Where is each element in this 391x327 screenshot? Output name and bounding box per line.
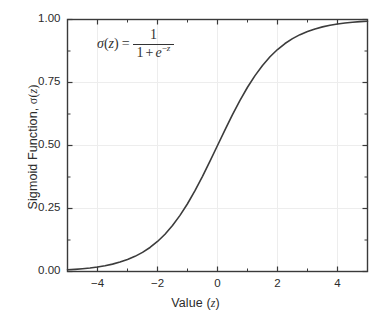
x-tick-label: −2 <box>143 277 173 289</box>
x-tick-label: −4 <box>83 277 113 289</box>
sigmoid-formula-annotation: σ(z) = 1 1+e−z <box>97 28 174 60</box>
formula-denominator-plus: + <box>144 45 156 60</box>
y-axis-title-close-paren: ) <box>26 85 40 89</box>
formula-sigma: σ <box>97 36 104 51</box>
chart-figure: 0.000.250.500.751.00−4−2024 Value (z) Si… <box>0 0 391 327</box>
y-axis-title-rotator: Sigmoid Function, σ(z) <box>23 7 41 287</box>
formula-close-paren: ) <box>114 36 119 51</box>
x-axis-title-suffix: ) <box>215 296 219 310</box>
x-axis-title-prefix: Value ( <box>171 296 210 310</box>
x-tick-label: 4 <box>323 277 353 289</box>
formula-denominator: 1+e−z <box>133 45 175 61</box>
y-axis-title: Sigmoid Function, σ(z) <box>26 85 41 210</box>
x-tick-label: 0 <box>203 277 233 289</box>
y-axis-title-prefix: Sigmoid Function, <box>26 104 40 209</box>
formula-equals-sign: = <box>122 36 130 52</box>
y-axis-title-open-paren: ( <box>26 93 40 97</box>
x-axis-title: Value (z) <box>0 296 391 311</box>
formula-denominator-one: 1 <box>137 45 144 60</box>
formula-numerator: 1 <box>144 28 163 44</box>
y-axis-title-variable: z <box>26 89 40 94</box>
formula-fraction: 1 1+e−z <box>133 28 175 60</box>
formula-exponent-variable: z <box>167 43 171 53</box>
formula-left-hand-side: σ(z) <box>97 36 119 52</box>
x-tick-label: 2 <box>263 277 293 289</box>
formula-exponent: −z <box>162 43 171 53</box>
y-axis-title-sigma: σ <box>26 98 40 105</box>
